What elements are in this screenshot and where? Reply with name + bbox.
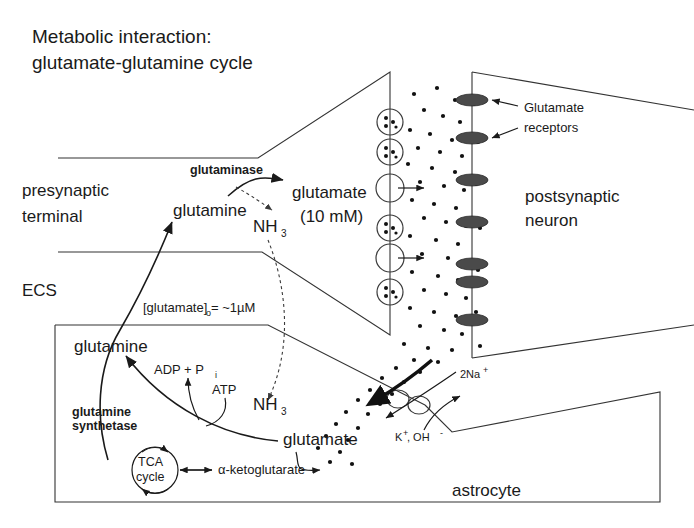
glutaminase-label: glutaminase [190, 163, 263, 177]
astro-ammonia-subscript: 3 [281, 406, 287, 417]
glutamate-glutamine-cycle-diagram: Metabolic interaction: glutamate-glutami… [0, 0, 694, 528]
ketoglutarate-label: α-ketoglutarate [218, 462, 305, 477]
receptors-label-line-1: Glutamate [524, 100, 584, 115]
synthetase-label-line-1: glutamine [72, 405, 131, 419]
astro-glutamate-label: glutamate [283, 430, 358, 449]
presyn-ammonia-text: NH [253, 217, 278, 236]
ecs-label: ECS [22, 281, 57, 300]
potassium-text: K [395, 431, 403, 443]
sodium-text: 2Na [460, 368, 481, 380]
potassium-hydroxide-label: K + , OH - [395, 428, 443, 443]
presyn-ammonia-subscript: 3 [281, 228, 287, 239]
sodium-label: 2Na + [460, 365, 488, 380]
diagram-page: Metabolic interaction: glutamate-glutami… [0, 0, 694, 528]
receptor-callout-arrow-1 [492, 100, 518, 106]
receptor-callout-arrow-2 [492, 128, 518, 138]
presynaptic-label-line-2: terminal [22, 207, 82, 226]
astro-glutamine-label: glutamine [74, 337, 148, 356]
vesicle-releasing [376, 244, 424, 272]
tca-label-line-1: TCA [138, 455, 164, 469]
presyn-glutamate-label: glutamate [292, 183, 367, 202]
postsynaptic-label-line-2: neuron [525, 211, 578, 230]
adp-release-arrow [188, 378, 199, 420]
hydroxide-text: , OH [407, 431, 430, 443]
astro-ammonia-text: NH [253, 395, 278, 414]
postsynaptic-label-line-1: postsynaptic [525, 187, 620, 206]
ecs-glutamate-prefix: [glutamate] [143, 300, 207, 315]
adp-label: ADP + P i [154, 362, 217, 380]
presynaptic-label-line-1: presynaptic [22, 181, 109, 200]
presyn-ammonia-label: NH 3 [253, 217, 287, 239]
glutamate-concentration-label: (10 mM) [300, 207, 363, 226]
astrocyte-label: astrocyte [452, 481, 521, 500]
tca-cycle-circle: TCA cycle [132, 447, 178, 494]
astro-ammonia-label: NH 3 [253, 395, 287, 417]
synthetase-label-line-2: synthetase [72, 419, 137, 433]
ammonia-transfer-dashed-arrow [268, 240, 285, 400]
synaptic-vesicles [376, 109, 424, 305]
adp-text: ADP + P [154, 362, 204, 377]
vesicle-releasing [376, 174, 424, 202]
hydroxide-superscript: - [440, 428, 443, 438]
title-line-2: glutamate-glutamine cycle [32, 52, 253, 73]
ecs-glutamate-concentration: [glutamate] o = ~1µM [143, 300, 255, 318]
receptors-label-line-2: receptors [524, 120, 579, 135]
sodium-influx-arrow [386, 372, 456, 418]
presyn-glutamine-label: glutamine [173, 201, 247, 220]
tca-arrow-top [142, 448, 168, 453]
ecs-glutamate-value: = ~1µM [211, 300, 255, 315]
tca-label-line-2: cycle [136, 470, 165, 484]
adp-subscript: i [215, 370, 217, 380]
title-line-1: Metabolic interaction: [32, 26, 212, 47]
atp-label: ATP [212, 382, 236, 397]
sodium-superscript: + [483, 365, 488, 375]
